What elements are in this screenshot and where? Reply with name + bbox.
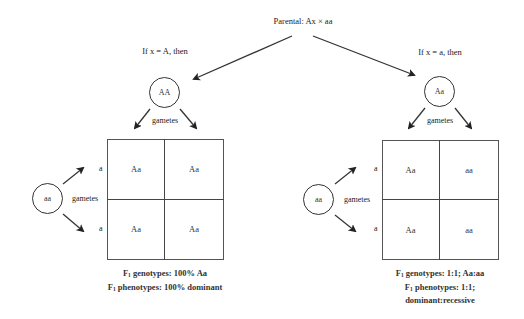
right-parent1-circle: Aa [424, 76, 455, 107]
left-parent2-genotype: aa [44, 194, 51, 203]
right-parent1-genotype: Aa [435, 87, 444, 96]
left-parent2-circle: aa [32, 183, 63, 214]
parental-title: Parental: Ax × aa [274, 17, 333, 26]
left-summary: F1 genotypes: 100% Aa F1 phenotypes: 100… [108, 268, 222, 295]
arrow-right-side-gamete-2 [335, 215, 355, 231]
right-cell-1-2: aa [440, 140, 498, 199]
arrow-right-gamete-1 [409, 108, 425, 128]
right-summary-genotypes: F1 genotypes: 1:1; Aa:aa [396, 268, 484, 282]
right-summary-ratio: dominant:recessive [396, 295, 484, 307]
arrow-right-gamete-2 [455, 108, 471, 128]
left-parent1-genotype: AA [159, 88, 171, 97]
right-summary-phenotypes: F1 phenotypes: 1:1; [396, 282, 484, 296]
left-parent1-circle: AA [149, 77, 180, 108]
right-cell-2-1: Aa [382, 200, 439, 259]
arrow-left-gamete-2 [180, 109, 196, 128]
left-gametes-side-label: gametes [72, 195, 98, 203]
right-gametes-side-label: gametes [344, 196, 370, 204]
right-parent2-genotype: aa [315, 195, 322, 204]
right-gametes-top-label: gametes [427, 117, 453, 125]
right-cell-2-2: aa [440, 200, 498, 259]
left-row-gamete-2: a [99, 225, 103, 233]
left-cell-1-2: Aa [165, 139, 223, 199]
right-cell-1-1: Aa [382, 140, 439, 199]
right-condition: If x = a, then [418, 48, 462, 57]
arrow-parental-to-left [194, 36, 292, 79]
arrow-left-gamete-1 [135, 109, 150, 128]
arrow-left-side-gamete-1 [63, 168, 83, 184]
left-cell-2-1: Aa [107, 199, 165, 259]
right-row-gamete-2: a [374, 225, 378, 233]
right-parent2-circle: aa [303, 184, 334, 215]
right-row-gamete-1: a [374, 165, 378, 173]
left-gametes-top-label: gametes [152, 117, 178, 125]
left-summary-phenotypes: F1 phenotypes: 100% dominant [108, 282, 222, 296]
left-summary-genotypes: F1 genotypes: 100% Aa [108, 268, 222, 282]
left-row-gamete-1: a [99, 165, 103, 173]
right-summary: F1 genotypes: 1:1; Aa:aa F1 phenotypes: … [396, 268, 484, 307]
arrow-parental-to-right [313, 36, 414, 75]
arrow-right-side-gamete-1 [335, 168, 355, 184]
left-condition: If x = A, then [142, 47, 188, 56]
left-cell-2-2: Aa [165, 199, 223, 259]
left-cell-1-1: Aa [107, 139, 165, 199]
arrow-left-side-gamete-2 [63, 214, 83, 231]
